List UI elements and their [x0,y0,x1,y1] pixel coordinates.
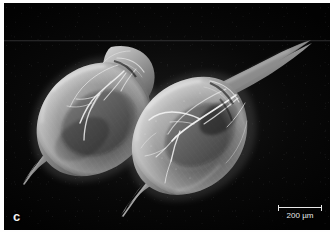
scale-bar-cap-right [321,205,322,211]
scale-bar-cap-left [278,205,279,211]
scale-bar-line [278,207,322,208]
page-margin-top [0,0,330,3]
page-margin-bottom [0,230,330,232]
sem-figure-panel: c 200 µm [0,0,330,232]
panel-label: c [13,210,20,223]
specimen-group [4,3,330,230]
scale-bar: 200 µm [278,205,322,221]
page-margin-left [0,0,4,232]
scale-bar-label: 200 µm [278,211,322,221]
scan-seam-line-shadow [4,41,330,42]
scale-bar-rule [278,205,322,211]
micrograph-plate: c 200 µm [4,3,330,230]
